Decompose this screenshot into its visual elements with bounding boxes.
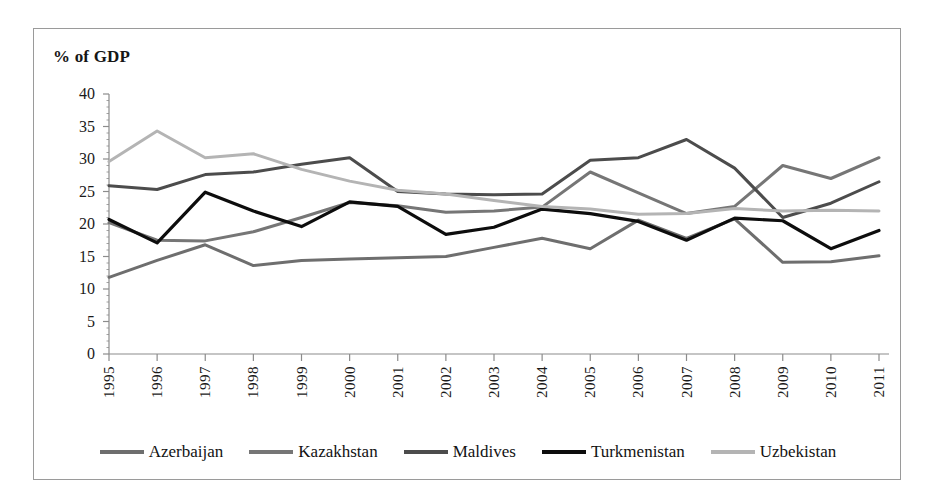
y-axis-tick-label: 20: [61, 215, 95, 233]
x-axis-tick-label: 2001: [390, 366, 407, 398]
legend-label: Kazakhstan: [298, 442, 377, 462]
y-axis-tick-label: 25: [61, 183, 95, 201]
legend-swatch-icon: [711, 450, 755, 454]
y-axis-tick-label: 10: [61, 280, 95, 298]
x-axis-tick-label: 1996: [149, 366, 166, 398]
plot-area: 0510152025303540 19951996199719981999200…: [34, 29, 902, 481]
legend-swatch-icon: [100, 450, 144, 454]
y-axis-tick-label: 30: [61, 150, 95, 168]
legend-item-kazakhstan[interactable]: Kazakhstan: [249, 442, 377, 462]
legend-item-turkmenistan[interactable]: Turkmenistan: [542, 442, 685, 462]
y-axis-tick-label: 0: [61, 345, 95, 363]
legend-label: Turkmenistan: [591, 442, 685, 462]
legend-item-azerbaijan[interactable]: Azerbaijan: [100, 442, 224, 462]
x-axis-tick-label: 2003: [486, 366, 503, 398]
x-axis-tick-label: 2007: [679, 366, 696, 398]
legend-item-uzbekistan[interactable]: Uzbekistan: [711, 442, 836, 462]
legend-item-maldives[interactable]: Maldives: [404, 442, 516, 462]
x-axis-tick-label: 2008: [727, 366, 744, 398]
x-axis-tick-label: 2011: [871, 366, 888, 397]
y-axis-tick-label: 35: [61, 118, 95, 136]
x-axis-tick-label: 2004: [534, 366, 551, 398]
y-axis-tick-label: 40: [61, 85, 95, 103]
x-axis-tick-label: 2010: [823, 366, 840, 398]
chart-frame: % of GDP 0510152025303540 19951996199719…: [33, 28, 901, 480]
x-axis-tick-label: 2005: [582, 366, 599, 398]
x-axis-tick-label: 1999: [294, 366, 311, 398]
x-axis-tick-label: 1998: [245, 366, 262, 398]
x-axis-tick-label: 1997: [197, 366, 214, 398]
series-line-maldives: [109, 140, 879, 218]
legend-swatch-icon: [542, 450, 586, 454]
x-axis-tick-label: 2009: [775, 366, 792, 398]
x-axis-tick-label: 2006: [630, 366, 647, 398]
legend-label: Uzbekistan: [760, 442, 836, 462]
legend-label: Azerbaijan: [149, 442, 224, 462]
y-axis-tick-label: 5: [61, 313, 95, 331]
x-axis-tick-label: 2002: [438, 366, 455, 398]
x-axis-tick-label: 2000: [342, 366, 359, 398]
x-axis-tick-label: 1995: [101, 366, 118, 398]
line-chart-svg: [34, 29, 902, 481]
legend-swatch-icon: [404, 450, 448, 454]
legend-label: Maldives: [453, 442, 516, 462]
y-axis-tick-label: 15: [61, 248, 95, 266]
legend-swatch-icon: [249, 450, 293, 454]
chart-legend: AzerbaijanKazakhstanMaldivesTurkmenistan…: [34, 432, 902, 472]
